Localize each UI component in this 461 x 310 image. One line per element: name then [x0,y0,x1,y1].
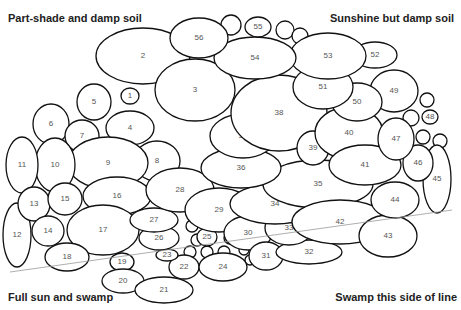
bed-number: 1 [128,91,133,100]
bed-21: 21 [135,277,193,303]
bed-number: 39 [309,143,318,152]
bed-number: 12 [13,230,22,239]
bed-number: 41 [361,160,370,169]
bed-number: 3 [193,85,198,94]
zone-label-full-sun: Full sun and swamp [8,291,113,303]
bed-53: 53 [290,33,366,79]
bed-number: 50 [353,97,362,106]
bed-number: 11 [18,160,27,169]
garden-plan-diagram: 1234567891011121314151617181920212223242… [0,0,461,310]
bed-number: 25 [203,232,212,241]
bed-number: 45 [433,174,442,183]
bed-number: 43 [384,231,393,240]
bed-44: 44 [371,182,419,218]
bed-number: 35 [314,179,323,188]
bed-1: 1 [121,88,139,104]
bed-number: 48 [426,112,435,121]
bed-43: 43 [359,215,417,257]
bed-number: 28 [176,185,185,194]
bed-number: 20 [119,276,128,285]
bed-number: 55 [254,22,263,31]
bed-19: 19 [110,253,134,271]
bed-number: 14 [44,226,53,235]
bed-number: 4 [128,123,133,132]
bed-15: 15 [48,183,82,215]
small-bed [420,93,434,107]
bed-number: 47 [392,134,401,143]
zone-label-sunshine: Sunshine but damp soil [330,12,454,24]
bed-24: 24 [199,253,247,281]
bed-number: 53 [324,51,333,60]
bed-number: 10 [51,160,60,169]
zone-label-swamp: Swamp this side of line [335,291,457,303]
bed-number: 40 [345,128,354,137]
bed-number: 24 [219,262,228,271]
bed-number: 36 [237,163,246,172]
bed-number: 23 [163,250,172,259]
bed-number: 9 [106,158,111,167]
bed-number: 42 [336,217,345,226]
bed-56: 56 [170,18,228,58]
bed-number: 46 [414,158,423,167]
bed-number: 18 [63,252,72,261]
bed-47: 47 [378,118,414,160]
bed-18: 18 [45,243,89,271]
bed-11: 11 [6,137,38,193]
bed-number: 30 [244,228,253,237]
bed-number: 38 [275,108,284,117]
bed-48: 48 [422,110,438,124]
bed-14: 14 [32,216,64,246]
bed-number: 7 [80,131,85,140]
bed-number: 16 [113,191,122,200]
bed-number: 6 [49,119,54,128]
small-bed [416,130,430,144]
bed-number: 27 [150,215,159,224]
small-bed [276,21,294,39]
bed-number: 49 [390,86,399,95]
zone-label-part-shade: Part-shade and damp soil [8,12,142,24]
bed-number: 15 [61,194,70,203]
bed-number: 51 [319,82,328,91]
bed-55: 55 [245,17,271,37]
bed-number: 8 [155,156,160,165]
bed-number: 26 [155,233,164,242]
bed-number: 44 [391,195,400,204]
bed-number: 54 [251,53,260,62]
bed-5: 5 [77,84,111,120]
bed-number: 2 [141,51,146,60]
bed-number: 5 [92,97,97,106]
planting-beds: 1234567891011121314151617181920212223242… [3,15,451,303]
bed-number: 31 [262,251,271,260]
bed-number: 13 [30,199,39,208]
bed-number: 56 [195,33,204,42]
bed-number: 17 [99,225,108,234]
bed-number: 32 [305,247,314,256]
bed-number: 29 [215,205,224,214]
bed-number: 22 [180,262,189,271]
bed-number: 21 [160,285,169,294]
bed-number: 52 [371,50,380,59]
bed-number: 19 [118,257,127,266]
